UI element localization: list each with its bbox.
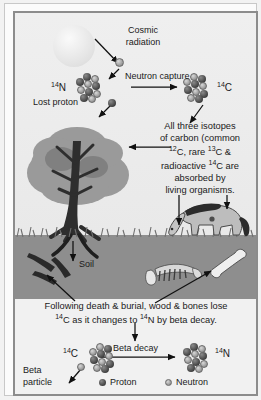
arrow-to-bone [155, 271, 211, 303]
arrow-beta-particle [69, 369, 81, 383]
proton-swatch-icon [99, 379, 106, 386]
neutron-swatch-icon [165, 379, 172, 386]
label-carbon-14-bottom: 14C [63, 347, 78, 361]
label-beta-decay: Beta decay [113, 343, 158, 355]
note-absorption: All three isotopes of carbon (common 12C… [145, 121, 255, 197]
label-neutron-capture: Neutron capture [125, 71, 190, 83]
label-cosmic-radiation: Cosmic radiation [111, 25, 175, 48]
note-decay: Following death & burial, wood & bones l… [29, 301, 243, 327]
arrow-to-wood [47, 275, 75, 301]
beta-particle-dot [77, 363, 85, 371]
diagram-stage: Cosmic radiation Neutron capture 14N 14C… [15, 13, 256, 394]
image-frame: Cosmic radiation Neutron capture 14N 14C… [0, 0, 261, 400]
incoming-neutron [115, 58, 124, 67]
legend-neutron: Neutron [165, 377, 208, 389]
label-beta-particle: Beta particle [23, 365, 52, 388]
arrow-lost-proton [99, 105, 111, 117]
legend-proton: Proton [99, 377, 137, 389]
label-lost-proton: Lost proton [33, 97, 78, 109]
nucleus-nitrogen-14 [74, 73, 104, 103]
diagram-border: Cosmic radiation Neutron capture 14N 14C… [13, 11, 258, 396]
nucleus-nitrogen-14-bottom [181, 343, 211, 373]
label-nitrogen-14-bottom: 14N [215, 347, 230, 361]
label-soil: Soil [79, 259, 94, 271]
frame-bevel: Cosmic radiation Neutron capture 14N 14C… [4, 3, 257, 396]
label-carbon-14-top: 14C [217, 81, 232, 95]
lost-proton-dot [108, 99, 116, 107]
label-nitrogen-14: 14N [51, 81, 66, 95]
arrow-neutron-to-nucleus [109, 69, 119, 79]
